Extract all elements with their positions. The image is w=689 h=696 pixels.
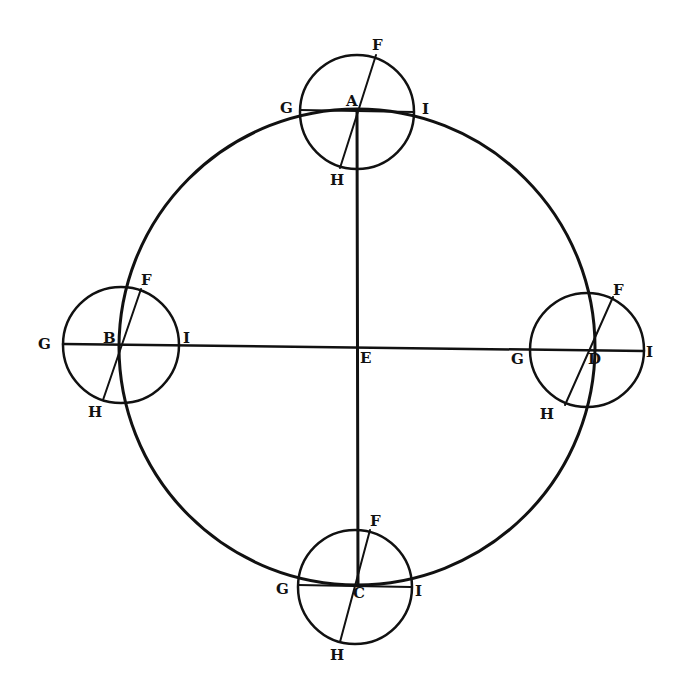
label-a: A	[345, 92, 358, 110]
label-g: G	[511, 350, 524, 368]
label-e: E	[360, 349, 371, 367]
label-c: C	[353, 584, 365, 602]
epicycle-diagram: F G A I H F G B I H F G D I H F G C I H …	[0, 0, 689, 696]
label-d: D	[588, 350, 601, 368]
epicycle-c: F G C I H	[276, 512, 422, 664]
label-f: F	[141, 271, 152, 289]
label-h: H	[330, 171, 344, 189]
label-i: I	[646, 343, 653, 361]
label-g: G	[38, 335, 51, 353]
label-i: I	[415, 582, 422, 600]
label-i: I	[183, 329, 190, 347]
label-g: G	[280, 99, 293, 117]
label-h: H	[540, 404, 554, 422]
label-f: F	[613, 281, 624, 299]
label-h: H	[88, 403, 102, 421]
label-g: G	[276, 580, 289, 598]
epicycle-a: F G A I H	[280, 36, 429, 189]
label-h: H	[330, 646, 344, 664]
horizontal-line-bd	[63, 344, 644, 351]
label-f: F	[370, 512, 381, 530]
label-i: I	[422, 100, 429, 118]
label-b: B	[103, 329, 116, 347]
label-f: F	[372, 36, 383, 54]
